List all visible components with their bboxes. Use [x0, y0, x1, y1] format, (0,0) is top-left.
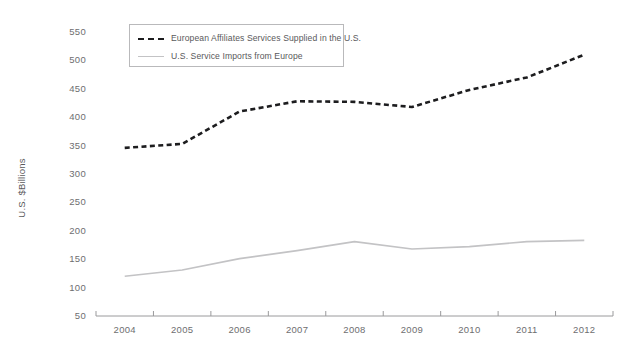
legend: European Affiliates Services Supplied in…	[129, 24, 344, 67]
axis-lines	[96, 311, 613, 316]
legend-swatch-dashed-icon	[138, 33, 164, 43]
series-line-0	[125, 55, 585, 148]
legend-label-1: U.S. Service Imports from Europe	[171, 51, 303, 61]
series-lines	[125, 55, 585, 277]
legend-item-1: U.S. Service Imports from Europe	[138, 49, 303, 63]
series-line-1	[125, 240, 585, 276]
legend-swatch-solid-icon	[138, 51, 164, 61]
line-chart: U.S. $Billions 5505004504003503002502001…	[0, 0, 636, 356]
legend-label-0: European Affiliates Services Supplied in…	[171, 33, 361, 43]
legend-item-0: European Affiliates Services Supplied in…	[138, 31, 361, 45]
